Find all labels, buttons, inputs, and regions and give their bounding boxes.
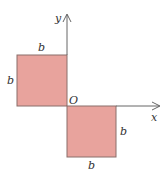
lower-right-square [67, 106, 116, 157]
origin-label: O [69, 94, 78, 107]
upper-square-side-label: b [7, 74, 14, 87]
lower-square-side-label: b [120, 125, 127, 138]
x-axis-label: x [151, 111, 158, 124]
diagram-canvas: y x O b b b b [0, 0, 168, 173]
lower-square-bottom-label: b [88, 159, 95, 172]
upper-left-square [17, 55, 67, 106]
upper-square-top-label: b [38, 41, 45, 54]
diagram-svg: y x O b b b b [0, 0, 168, 173]
y-axis-label: y [54, 12, 62, 25]
